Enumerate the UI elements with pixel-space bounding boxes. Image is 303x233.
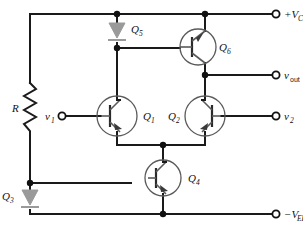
terminal-v2[interactable] [272, 112, 279, 119]
node-bias [27, 180, 33, 186]
node-vout [202, 72, 208, 78]
node-vee-q4 [160, 211, 166, 217]
q6-label: Q [219, 41, 227, 53]
terminal-v1[interactable] [58, 112, 65, 119]
q1-label: Q [143, 110, 151, 122]
q2-emitter-arrow [200, 123, 208, 130]
node-q5-out [114, 45, 120, 51]
terminal-vout[interactable] [272, 71, 279, 78]
q2-label: Q [168, 110, 176, 122]
q6-label-sub: 6 [227, 47, 231, 56]
resistor-R: R [11, 83, 36, 137]
resistor-label: R [11, 102, 19, 114]
vout-label-sub: out [290, 76, 300, 83]
node-vcc-q5 [114, 11, 120, 17]
v2-label: v [284, 110, 289, 122]
q5-label: Q [131, 23, 139, 35]
q4-collector-lead [156, 162, 166, 172]
transistor-Q6: Q 6 [180, 29, 231, 65]
q2-label-sub: 2 [176, 116, 180, 125]
wire-network [30, 14, 272, 214]
circuit-schematic: R Q 5 Q 3 Q 1 Q 2 [0, 0, 303, 233]
q4-label-sub: 4 [196, 178, 200, 187]
q3-label: Q [2, 190, 10, 202]
transistor-Q2: Q 2 [168, 96, 225, 136]
terminal-vcc[interactable] [272, 10, 279, 17]
q4-label: Q [188, 172, 196, 184]
node-tail [160, 142, 166, 148]
node-vcc-q6 [202, 11, 208, 17]
q2-collector-lead [202, 100, 212, 110]
q1-collector-lead [110, 100, 120, 110]
q4-emitter-arrow [160, 185, 168, 192]
q5-triangle [109, 23, 125, 38]
q6-emitter-lead [192, 53, 205, 63]
v2-label-sub: 2 [290, 116, 294, 125]
transistor-Q4: Q 4 [145, 160, 200, 196]
current-source-Q5: Q 5 [108, 23, 143, 40]
vee-label-sub: EE [296, 214, 303, 223]
q1-emitter-arrow [114, 123, 122, 130]
v1-label-sub: 1 [51, 116, 55, 125]
terminal-vee[interactable] [272, 210, 279, 217]
vcc-label-sub: CC [298, 14, 303, 23]
v1-label: v [45, 110, 50, 122]
q1-label-sub: 1 [151, 116, 155, 125]
vout-label: v [284, 69, 289, 81]
q3-label-sub: 3 [9, 196, 14, 205]
current-source-Q3: Q 3 [2, 190, 39, 207]
q5-label-sub: 5 [139, 29, 143, 38]
transistor-Q1: Q 1 [97, 96, 155, 136]
q3-triangle [22, 190, 38, 205]
